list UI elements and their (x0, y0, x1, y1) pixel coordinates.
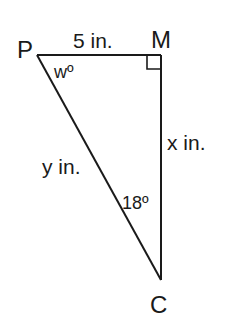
side-label-pm: 5 in. (73, 29, 113, 52)
side-label-pc: y in. (42, 155, 81, 178)
angle-label-c: 18º (122, 193, 149, 213)
right-angle-marker (147, 55, 161, 69)
vertex-label-p: P (17, 36, 33, 63)
vertex-label-m: M (151, 26, 171, 53)
triangle-diagram: P M C 5 in. x in. y in. wº 18º (0, 0, 232, 326)
side-label-mc: x in. (167, 131, 206, 154)
vertex-label-c: C (150, 291, 167, 318)
angle-label-p: wº (53, 62, 74, 82)
